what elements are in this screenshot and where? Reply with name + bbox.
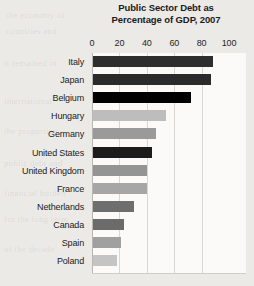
bar-germany <box>92 128 156 139</box>
chart-title: Public Sector Debt as Percentage of GDP,… <box>86 2 246 26</box>
bar-spain <box>92 237 121 248</box>
category-label-netherlands: Netherlands <box>37 202 84 212</box>
bar-chart: Public Sector Debt as Percentage of GDP,… <box>0 0 254 286</box>
chart-title-line-2: Percentage of GDP, 2007 <box>86 14 246 26</box>
x-axis-tick-label-20: 20 <box>115 38 125 48</box>
bar-united-states <box>92 147 152 158</box>
plot-area-overflow <box>229 53 246 274</box>
category-label-united-states: United States <box>32 148 84 158</box>
category-label-belgium: Belgium <box>53 93 84 103</box>
category-label-poland: Poland <box>57 256 84 266</box>
page-canvas: the economy ofcountries andit remained i… <box>0 0 254 286</box>
x-axis-tick-label-80: 80 <box>197 38 207 48</box>
bar-france <box>92 183 147 194</box>
category-label-hungary: Hungary <box>51 111 84 121</box>
chart-title-line-1: Public Sector Debt as <box>86 2 246 14</box>
plot-area <box>92 53 229 274</box>
bar-netherlands <box>92 201 134 212</box>
category-label-spain: Spain <box>62 238 84 248</box>
bar-hungary <box>92 110 166 121</box>
category-label-canada: Canada <box>53 220 84 230</box>
x-axis-tick-label-100: 100 <box>222 38 236 48</box>
plot-bottom-border <box>92 273 246 274</box>
x-axis-tick-label-40: 40 <box>142 38 152 48</box>
bar-belgium <box>92 92 191 103</box>
bar-italy <box>92 56 213 67</box>
x-axis-tick-label-0: 0 <box>90 38 95 48</box>
y-axis-baseline <box>92 53 93 274</box>
category-label-japan: Japan <box>60 75 84 85</box>
bar-united-kingdom <box>92 165 147 176</box>
x-axis: 020406080100 <box>0 38 254 51</box>
category-label-germany: Germany <box>48 129 84 139</box>
bar-canada <box>92 219 124 230</box>
category-label-united-kingdom: United Kingdom <box>22 166 84 176</box>
bar-poland <box>92 255 117 266</box>
y-axis-category-labels: ItalyJapanBelgiumHungaryGermanyUnited St… <box>0 53 88 274</box>
gridline-40 <box>147 53 148 274</box>
gridline-80 <box>202 53 203 274</box>
category-label-france: France <box>57 184 84 194</box>
bar-japan <box>92 74 211 85</box>
category-label-italy: Italy <box>68 57 84 67</box>
gridline-60 <box>174 53 175 274</box>
x-axis-tick-label-60: 60 <box>169 38 179 48</box>
